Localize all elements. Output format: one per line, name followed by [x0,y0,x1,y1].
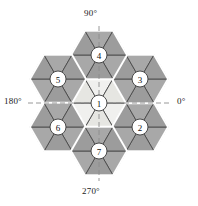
node-marker-3[interactable]: 3 [132,71,148,87]
node-marker-2[interactable]: 2 [132,119,148,135]
angle-label-0: 0° [177,96,186,106]
angle-label-270: 270° [82,186,100,196]
node-marker-4[interactable]: 4 [91,47,107,63]
node-label-6: 6 [56,123,61,133]
node-marker-5[interactable]: 5 [50,71,66,87]
node-marker-7[interactable]: 7 [91,143,107,159]
node-label-2: 2 [138,123,143,133]
node-marker-6[interactable]: 6 [50,119,66,135]
angle-label-90: 90° [84,8,97,18]
angle-label-180: 180° [4,96,22,106]
node-label-5: 5 [56,75,61,85]
node-marker-1[interactable]: 1 [91,95,107,111]
hexagonal-cluster-figure: 1234567 90° 0° 270° 180° [0,0,198,206]
node-label-4: 4 [97,51,102,61]
node-label-3: 3 [138,75,143,85]
node-label-1: 1 [97,99,102,109]
hexagon-tiling-svg: 1234567 [0,0,198,206]
node-label-7: 7 [97,147,102,157]
